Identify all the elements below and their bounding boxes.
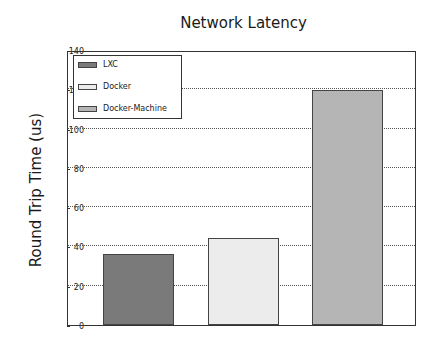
legend: LXCDockerDocker-Machine <box>73 55 182 119</box>
legend-swatch <box>78 106 97 112</box>
legend-item-lxc: LXC <box>78 60 118 69</box>
legend-swatch <box>78 62 97 68</box>
bar-lxc <box>103 254 174 325</box>
chart-title: Network Latency <box>0 14 439 32</box>
bar-docker <box>208 238 279 325</box>
y-axis-label: Round Trip Time (us) <box>27 113 45 267</box>
legend-item-docker-machine: Docker-Machine <box>78 104 167 113</box>
y-tick-mark <box>67 326 70 327</box>
legend-label: Docker-Machine <box>103 104 167 113</box>
legend-label: LXC <box>103 60 118 69</box>
legend-swatch <box>78 84 97 90</box>
legend-item-docker: Docker <box>78 82 131 91</box>
legend-label: Docker <box>103 82 131 91</box>
bar-docker-machine <box>312 90 383 325</box>
